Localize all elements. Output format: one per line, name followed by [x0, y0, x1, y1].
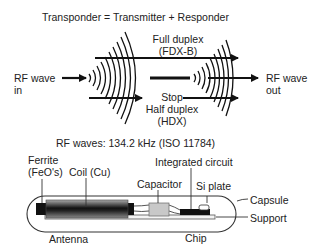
wave-arcs-left — [89, 32, 136, 124]
ferrite-core-right — [128, 203, 134, 215]
ferrite-core-left — [36, 203, 46, 215]
capacitor — [149, 203, 169, 216]
si-plate — [199, 205, 209, 210]
coil — [46, 200, 128, 218]
transponder-diagram — [0, 0, 319, 252]
